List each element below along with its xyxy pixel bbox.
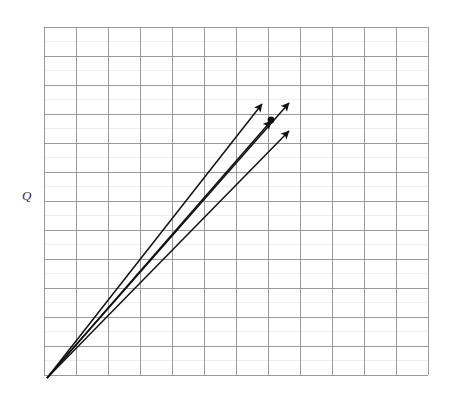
y-axis-label: Q [22,188,31,204]
equilibrium-point-marker [268,117,275,124]
graph-figure [0,0,451,405]
